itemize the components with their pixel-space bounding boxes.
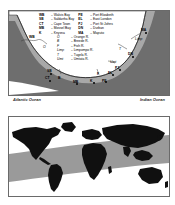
city-dot-el [112, 74, 114, 76]
map-label-umt: Umt [110, 61, 116, 64]
legend-cities-left-column: WB – Walvis Bay SB – Saldanha Bay CT – C… [39, 13, 74, 35]
legend-river-name: Umtata R. [74, 57, 89, 61]
panel-world-map [8, 116, 170, 197]
city-dot-dn [132, 56, 134, 58]
map-label-limp: Limp [135, 38, 142, 41]
city-dot-pj [119, 69, 121, 71]
map-label-f: F [97, 73, 99, 76]
legend-name: Maputo [93, 31, 104, 35]
panel-southern-africa-map: WB – Walvis Bay SB – Saldanha Bay CT – C… [8, 10, 170, 96]
legend-rivers: O – Orange R. B – Breede R. F – Fish R. … [57, 35, 93, 61]
figure-two-panel-map: WB – Walvis Bay SB – Saldanha Bay CT – C… [0, 0, 175, 205]
world-map-graphic [9, 117, 169, 196]
legend-river-abbr: Umt [57, 57, 70, 61]
legend-cities: WB – Walvis Bay SB – Saldanha Bay CT – C… [39, 13, 147, 35]
city-dot-mb [76, 83, 78, 85]
city-dot-sb [50, 73, 52, 75]
map-label-b: B [58, 77, 60, 80]
new-zealand [165, 181, 168, 188]
legend-abbr: K [39, 31, 50, 35]
ocean-label-indian: Indian Ocean [140, 97, 165, 102]
city-dot-ct [49, 80, 51, 82]
city-dot-ma [145, 32, 147, 34]
ocean-label-atlantic: Atlantic Ocean [13, 97, 41, 102]
legend-river-item: Umt – Umtata R. [57, 57, 93, 61]
legend-cities-right-column: PE – Port Elizabeth EL – East London PJ … [78, 13, 113, 35]
city-dot-pe [105, 81, 107, 83]
map-label-t: T [119, 48, 121, 51]
map-label-o: O [43, 46, 46, 49]
map-label-wb: WB [29, 36, 35, 39]
city-dot-k [93, 82, 95, 84]
